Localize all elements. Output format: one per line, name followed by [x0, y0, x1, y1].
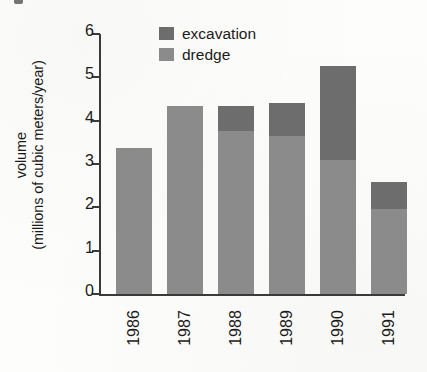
x-tick-label-1991: 1991 [363, 302, 414, 362]
x-tick-label-text: 1991 [381, 310, 397, 346]
legend-item-dredge: dredge [159, 47, 256, 63]
y-tick-label: 2 [85, 196, 94, 212]
bar-segment-dredge [116, 148, 152, 294]
y-axis-title-line-1: volume [13, 60, 30, 249]
y-axis-title: volume (millions of cubic meters/year) [0, 0, 60, 310]
x-axis-line [99, 294, 405, 296]
bar-segment-dredge [167, 106, 203, 294]
x-tick-label-text: 1990 [330, 310, 346, 346]
bar-1988 [218, 106, 254, 294]
bar-segment-dredge [320, 160, 356, 294]
bar-1989 [269, 103, 305, 294]
bar-1990 [320, 66, 356, 294]
legend: excavationdredge [159, 26, 256, 67]
plot-area: 0123456 [99, 34, 405, 296]
legend-swatch-icon [159, 27, 174, 40]
y-tick-label: 1 [85, 240, 94, 256]
bar-1987 [167, 106, 203, 294]
bar-segment-excavation [269, 103, 305, 136]
y-axis-line [99, 34, 101, 296]
bar-segment-excavation [320, 66, 356, 160]
y-tick-label: 5 [85, 66, 94, 82]
bar-1991 [371, 182, 407, 294]
x-tick-label-1986: 1986 [108, 302, 159, 362]
bar-segment-excavation [218, 106, 254, 130]
legend-swatch-icon [159, 48, 174, 61]
x-tick-label-text: 1987 [177, 310, 193, 346]
x-tick-label-1987: 1987 [159, 302, 210, 362]
bar-segment-dredge [218, 131, 254, 294]
bar-segment-dredge [371, 209, 407, 294]
y-axis-title-line-2: (millions of cubic meters/year) [30, 60, 47, 249]
legend-item-label: excavation [182, 26, 256, 42]
bar-segment-dredge [269, 136, 305, 294]
x-tick-label-text: 1986 [126, 310, 142, 346]
x-tick-label-text: 1988 [228, 310, 244, 346]
legend-item-excavation: excavation [159, 26, 256, 42]
y-tick-label: 4 [85, 110, 94, 126]
bar-1986 [116, 148, 152, 294]
y-tick-label: 6 [85, 23, 94, 39]
y-tick-label: 3 [85, 153, 94, 169]
x-tick-label-1988: 1988 [210, 302, 261, 362]
x-tick-label-1989: 1989 [261, 302, 312, 362]
chart-figure: volume (millions of cubic meters/year) 0… [0, 0, 427, 372]
legend-item-label: dredge [182, 47, 230, 63]
y-tick-label: 0 [85, 283, 94, 299]
x-tick-label-text: 1989 [279, 310, 295, 346]
x-tick-label-1990: 1990 [312, 302, 363, 362]
bar-segment-excavation [371, 182, 407, 208]
